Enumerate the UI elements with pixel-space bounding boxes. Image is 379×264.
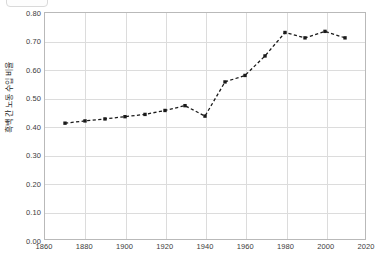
data-point-marker (163, 109, 166, 112)
data-series-line (45, 13, 365, 239)
series-polyline (65, 31, 345, 123)
data-point-marker (143, 113, 146, 116)
y-tick-label: 0.20 (1, 179, 41, 188)
data-point-marker (103, 117, 106, 120)
data-point-marker (283, 31, 286, 34)
x-tick-label: 1900 (116, 242, 133, 251)
data-point-marker (323, 30, 326, 33)
data-point-marker (223, 80, 226, 83)
x-tick-label: 2000 (317, 242, 334, 251)
x-axis-tick-labels: 186018801900192019401960198020002020 (44, 242, 366, 258)
x-tick-label: 1920 (156, 242, 173, 251)
data-point-marker (303, 36, 306, 39)
plot-area (44, 12, 366, 240)
data-point-marker (183, 104, 186, 107)
chart-container: 0.000.100.200.300.400.500.600.700.80 186… (0, 0, 379, 264)
data-point-marker (243, 74, 246, 77)
x-tick-label: 1980 (277, 242, 294, 251)
x-tick-label: 1880 (76, 242, 93, 251)
data-point-marker (343, 36, 346, 39)
x-tick-label: 1860 (35, 242, 52, 251)
top-left-artifact (6, 0, 48, 7)
data-point-marker (263, 54, 266, 57)
x-tick-label: 1960 (237, 242, 254, 251)
y-axis-title: 흑백 간 노동 수입 비율 (3, 36, 14, 160)
y-tick-label: 0.80 (1, 8, 41, 17)
data-point-marker (63, 121, 66, 124)
data-point-marker (123, 115, 126, 118)
x-tick-label: 2020 (357, 242, 374, 251)
data-point-marker (203, 114, 206, 117)
y-tick-label: 0.10 (1, 208, 41, 217)
data-point-marker (83, 119, 86, 122)
x-tick-label: 1940 (196, 242, 213, 251)
